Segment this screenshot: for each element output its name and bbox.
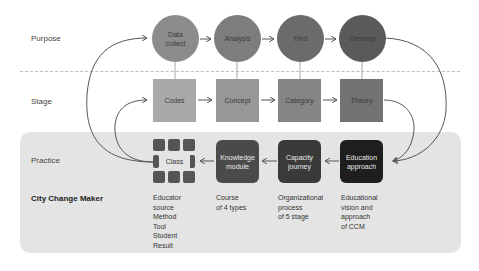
purpose-stage-divider [20, 71, 460, 72]
grid-tile [168, 139, 180, 151]
description-line: Method [153, 212, 181, 222]
description-line: approach [341, 212, 378, 222]
grid-tile [168, 171, 180, 183]
node-label: Codes [164, 97, 184, 104]
description-line: vision and [341, 203, 378, 213]
description-line: process [278, 203, 323, 213]
stage-node-theory: Theory [340, 79, 383, 122]
description-line: Result [153, 241, 181, 251]
stage-node-concept: Concept [216, 79, 259, 122]
description-line: Educator [153, 193, 181, 203]
description-line: Organizational [278, 193, 323, 203]
description-line: Student [153, 231, 181, 241]
description-line: of 5 stage [278, 212, 323, 222]
node-label: Analysis [224, 34, 250, 43]
stage-node-codes: Codes [153, 79, 196, 122]
purpose-node-find: Find [277, 15, 324, 62]
description-line: of CCM [341, 222, 378, 232]
grid-tile [153, 171, 165, 183]
grid-tile [183, 139, 195, 151]
description-line: of 4 types [216, 203, 246, 213]
description-line: source [153, 203, 181, 213]
row-label-purpose: Purpose [31, 34, 61, 43]
node-label: collect [166, 39, 186, 48]
node-label: Develop [350, 34, 376, 43]
grid-tile [153, 139, 165, 151]
description-line: Course [216, 193, 246, 203]
purpose-node-develop: Develop [339, 15, 386, 62]
description-class: Educator source Method Tool Student Resu… [153, 193, 181, 251]
description-line: Educational [341, 193, 378, 203]
description-education-approach: Educational vision and approach of CCM [341, 193, 378, 231]
grid-tile [183, 171, 195, 183]
node-label: Find [294, 34, 308, 43]
node-label: Education [346, 153, 377, 162]
node-label: module [220, 162, 255, 171]
node-label: Concept [224, 97, 250, 104]
purpose-node-analysis: Analysis [214, 15, 261, 62]
node-label: Theory [351, 97, 373, 104]
node-label: Data [166, 30, 186, 39]
node-label: approach [346, 162, 377, 171]
practice-node-education-approach: Educationapproach [340, 140, 383, 183]
stage-node-category: Category [278, 79, 321, 122]
node-label: Capacity [286, 153, 313, 162]
node-label: journey [286, 162, 313, 171]
practice-node-knowledge-module: Knowledgemodule [216, 140, 259, 183]
description-line: Tool [153, 222, 181, 232]
node-label: Category [285, 97, 313, 104]
practice-node-capacity-journey: Capacityjourney [278, 140, 321, 183]
description-knowledge-module: Course of 4 types [216, 193, 246, 212]
diagram-title: City Change Maker [31, 194, 103, 203]
node-label: Knowledge [220, 153, 255, 162]
row-label-practice: Practice [31, 156, 60, 165]
purpose-node-data-collect: Datacollect [152, 15, 199, 62]
description-capacity-journey: Organizational process of 5 stage [278, 193, 323, 222]
class-label: Class [159, 155, 190, 168]
row-label-stage: Stage [31, 97, 52, 106]
